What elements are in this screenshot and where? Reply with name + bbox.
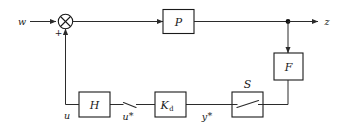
switch-symbol-u-star: [124, 103, 137, 108]
wire-h-to-sum: [66, 29, 80, 105]
signal-label-u-star-mark: *: [129, 110, 134, 121]
signal-label-u-star-base: u: [122, 111, 128, 122]
block-kd-label-subscript: d: [169, 105, 174, 113]
signal-label-u: u: [64, 110, 70, 121]
block-f-label: F: [284, 61, 293, 74]
signal-label-y-star-mark: *: [207, 110, 212, 121]
block-kd-label-base: K: [160, 99, 170, 112]
signal-label-w: w: [18, 16, 26, 27]
block-p-label: P: [174, 16, 183, 29]
signal-label-z: z: [323, 16, 330, 27]
wire-f-to-s: [263, 80, 288, 105]
signal-label-u-star: u*: [122, 110, 133, 122]
signal-label-y-star: y*: [201, 110, 213, 122]
block-diagram-svg: P F H Kd S w z u u* y* +: [0, 0, 342, 132]
block-s-label: S: [244, 78, 252, 91]
block-h-label: H: [89, 99, 100, 112]
summing-junction-sign-plus: +: [55, 28, 63, 38]
block-diagram-canvas: P F H Kd S w z u u* y* +: [0, 0, 342, 132]
